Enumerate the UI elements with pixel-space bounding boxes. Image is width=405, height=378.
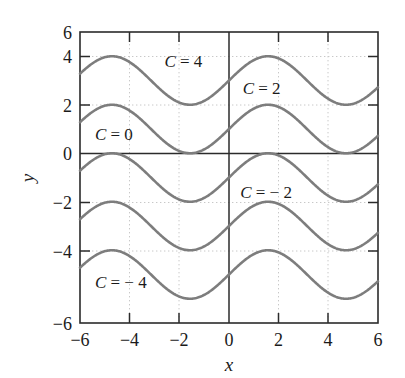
ytick-label-2: 2 bbox=[63, 96, 72, 116]
x-axis-title: x bbox=[224, 354, 234, 375]
curve-label-3: C = − 2 bbox=[240, 183, 292, 202]
curve-label-2: C = 0 bbox=[95, 125, 133, 144]
xtick-label-2: 2 bbox=[274, 330, 283, 350]
ytick-label-minus2: −2 bbox=[53, 193, 72, 213]
ytick-label-4: 4 bbox=[63, 47, 72, 67]
xtick-label-minus6: −6 bbox=[70, 330, 89, 350]
y-axis-title: y bbox=[17, 173, 38, 184]
ytick-label-0: 0 bbox=[63, 144, 72, 164]
xtick-label-6: 6 bbox=[374, 330, 383, 350]
curve-label-0: C = 4 bbox=[164, 52, 202, 71]
curve-label-4: C = − 4 bbox=[95, 273, 147, 292]
curve-label-1: C = 2 bbox=[243, 79, 281, 98]
xtick-label-0: 0 bbox=[225, 330, 234, 350]
ytick-label-6: 6 bbox=[63, 23, 72, 43]
ytick-label-minus4: −4 bbox=[53, 242, 72, 262]
xtick-label-minus4: −4 bbox=[120, 330, 139, 350]
xtick-label-4: 4 bbox=[324, 330, 333, 350]
plot-figure: 6 4 2 0 −2 −4 −6 −6 −4 −2 0 2 4 6 x y C … bbox=[0, 0, 405, 378]
xtick-label-minus2: −2 bbox=[169, 330, 188, 350]
ytick-label-minus6: −6 bbox=[53, 314, 72, 334]
